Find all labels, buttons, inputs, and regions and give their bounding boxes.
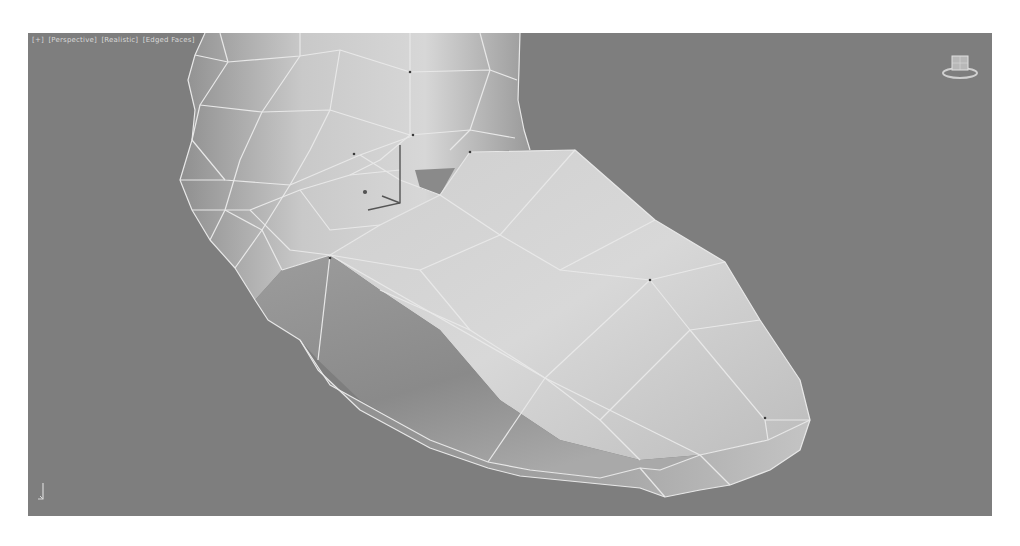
viewport-menu-edged-faces[interactable]: [Edged Faces] xyxy=(143,36,195,44)
viewport-menu-perspective[interactable]: [Perspective] xyxy=(48,36,97,44)
viewport-menu-shading[interactable]: [Realistic] xyxy=(101,36,138,44)
world-axis-tripod-icon xyxy=(36,481,56,503)
viewport-label[interactable]: [+] [Perspective] [Realistic] [Edged Fac… xyxy=(32,36,197,44)
perspective-viewport[interactable]: [+] [Perspective] [Realistic] [Edged Fac… xyxy=(28,33,992,516)
viewcube-icon[interactable] xyxy=(940,51,980,81)
boot-mesh[interactable] xyxy=(28,33,992,516)
viewport-menu-plus[interactable]: [+] xyxy=(32,36,44,44)
